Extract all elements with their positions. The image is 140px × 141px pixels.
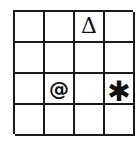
grid-cell-r1-c2 — [75, 43, 105, 74]
grid-cell-r3-c3 — [105, 105, 135, 136]
grid-cell-r2-c2 — [75, 74, 105, 105]
grid-cell-r3-c0 — [15, 105, 45, 136]
grid-cell-r0-c1 — [45, 12, 75, 43]
grid-cell-r3-c2 — [75, 105, 105, 136]
at-sign-icon: @ — [49, 79, 69, 99]
grid-cell-r2-c3: ✱ — [105, 74, 135, 105]
grid-cell-r2-c1: @ — [45, 74, 75, 105]
grid-cell-r0-c0 — [15, 12, 45, 43]
grid-cell-r3-c1 — [45, 105, 75, 136]
grid-cell-r2-c0 — [15, 74, 45, 105]
grid-cell-r1-c0 — [15, 43, 45, 74]
symbol-grid: Δ @ ✱ — [13, 10, 133, 134]
grid-cell-r0-c3 — [105, 12, 135, 43]
delta-triangle-icon: Δ — [81, 15, 97, 37]
grid-cell-r1-c1 — [45, 43, 75, 74]
grid-cell-r0-c2: Δ — [75, 12, 105, 43]
asterisk-icon: ✱ — [107, 78, 130, 106]
grid-cell-r1-c3 — [105, 43, 135, 74]
